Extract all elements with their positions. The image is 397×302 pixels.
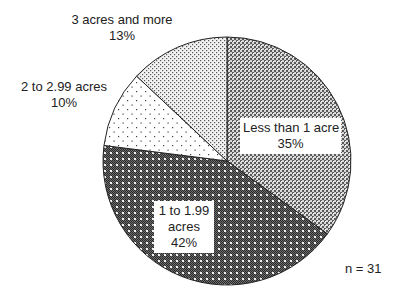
label-1-to-1-99-acres-line1: 1 to 1.99	[157, 203, 211, 219]
label-1-to-1-99-acres-line2: acres	[157, 219, 211, 235]
label-2-to-2-99-acres-name: 2 to 2.99 acres	[14, 79, 114, 95]
label-2-to-2-99-acres-pct: 10%	[14, 95, 114, 111]
label-3-acres-and-more-pct: 13%	[67, 28, 177, 44]
sample-size-annotation: n = 31	[345, 261, 382, 277]
label-less-than-1-acre: Less than 1 acre 35%	[240, 118, 341, 154]
label-1-to-1-99-acres-pct: 42%	[157, 235, 211, 251]
label-1-to-1-99-acres: 1 to 1.99 acres 42%	[154, 201, 214, 253]
label-less-than-1-acre-name: Less than 1 acre	[243, 120, 338, 136]
pie-slices	[103, 37, 351, 285]
label-3-acres-and-more-name: 3 acres and more	[67, 12, 177, 28]
label-2-to-2-99-acres: 2 to 2.99 acres 10%	[14, 79, 114, 111]
label-less-than-1-acre-pct: 35%	[243, 136, 338, 152]
label-3-acres-and-more: 3 acres and more 13%	[67, 12, 177, 44]
